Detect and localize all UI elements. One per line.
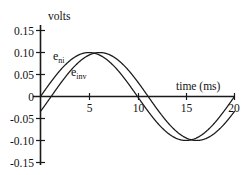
x-axis-title: time (ms) [176, 80, 221, 93]
y-tick-label-2: 0.05 [14, 69, 34, 81]
y-tick-label-5: -0.10 [10, 135, 34, 147]
chart-svg: 0.15 0.10 0.05 0 -0.05 -0.10 -0.15 5 10 … [0, 0, 245, 175]
y-tick-label-1: 0.10 [14, 47, 34, 59]
e-ni-subscript: ni [58, 56, 65, 65]
svg-text:eni: eni [53, 49, 65, 65]
e-inv-label: einv [71, 65, 87, 81]
e-ni-label: eni [53, 49, 65, 65]
x-tick-label-15: 15 [181, 102, 193, 114]
y-tick-label-3: 0 [28, 91, 34, 103]
oscilloscope-waveform-chart: 0.15 0.10 0.05 0 -0.05 -0.10 -0.15 5 10 … [0, 0, 245, 175]
y-tick-label-4: -0.05 [10, 113, 34, 125]
x-tick-label-5: 5 [87, 102, 93, 114]
y-tick-label-0: 0.15 [14, 25, 34, 37]
y-axis-title: volts [48, 10, 71, 22]
svg-text:einv: einv [71, 65, 87, 81]
y-tick-label-6: -0.15 [10, 157, 34, 169]
e-inv-subscript: inv [76, 72, 86, 81]
